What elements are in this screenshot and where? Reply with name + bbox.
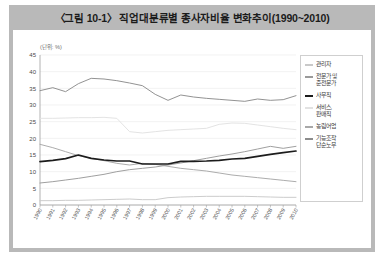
y-tick-label: 20: [29, 136, 36, 142]
legend-label-0: 관리자: [316, 61, 331, 68]
x-tick-label: 1998: [134, 207, 145, 220]
series-line-3: [40, 117, 296, 133]
legend-label-1: 전문가 및 준전문가: [316, 73, 337, 87]
y-tick-label: 30: [29, 102, 36, 108]
x-tick-label: 2005: [224, 207, 235, 220]
x-tick-label: 1994: [83, 207, 94, 220]
x-tick-label: 2007: [250, 207, 261, 220]
x-tick-label: 2003: [198, 207, 209, 220]
figure-container: 〈그림 10-1〉 직업대분류별 종사자비율 변화추이(1990~2010) 0…: [0, 0, 384, 257]
page-title: 〈그림 10-1〉 직업대분류별 종사자비율 변화추이(1990~2010): [55, 10, 330, 25]
x-tick-label: 2002: [186, 207, 197, 220]
x-tick-label: 2000: [160, 207, 171, 220]
legend-swatch-icon-5: [305, 138, 313, 140]
legend-item-4[interactable]: 농림어업: [305, 123, 359, 130]
y-tick-label: 5: [33, 186, 37, 192]
legend-item-0[interactable]: 관리자: [305, 61, 359, 68]
legend-label-3: 서비스, 판매직: [316, 104, 332, 118]
legend-swatch-icon-2: [305, 95, 313, 97]
y-tick-label: 40: [29, 69, 36, 75]
x-tick-label: 1990: [32, 207, 43, 220]
legend-label-5: 기능조작 단순노무: [316, 135, 335, 149]
x-tick-label: 1992: [58, 207, 69, 220]
x-tick-label: 1996: [109, 207, 120, 220]
x-tick-label: 1999: [147, 207, 158, 220]
y-tick-label: 25: [29, 119, 36, 125]
x-tick-label: 1995: [96, 207, 107, 220]
legend-swatch-icon-3: [305, 107, 313, 109]
legend-label-4: 농림어업: [316, 123, 335, 130]
x-tick-label: 1993: [70, 207, 81, 220]
figure-title-bar: 〈그림 10-1〉 직업대분류별 종사자비율 변화추이(1990~2010): [9, 5, 375, 30]
x-tick-label: 1997: [122, 207, 133, 220]
x-tick-label: 1991: [45, 207, 56, 220]
legend-item-5[interactable]: 기능조작 단순노무: [305, 135, 359, 149]
x-tick-label: 2001: [173, 207, 184, 220]
chart-legend: 관리자 전문가 및 준전문가 사무직 서비스, 판매직 농림어업 기능조작 단순…: [300, 55, 363, 202]
legend-item-2[interactable]: 사무직: [305, 92, 359, 99]
x-tick-label: 2004: [211, 207, 222, 220]
x-tick-label: 2009: [275, 207, 286, 220]
x-tick-label: 2006: [237, 207, 248, 220]
legend-item-1[interactable]: 전문가 및 준전문가: [305, 73, 359, 87]
legend-swatch-icon-4: [305, 126, 313, 128]
series-line-4: [40, 144, 296, 181]
y-tick-label: 35: [29, 86, 36, 92]
series-line-5: [40, 78, 296, 101]
x-tick-label: 2008: [262, 207, 273, 220]
y-tick-label: 45: [29, 52, 36, 58]
unit-label: (단위: %): [40, 43, 62, 51]
series-line-0: [40, 196, 296, 200]
x-tick-label: 2010: [288, 207, 299, 220]
y-tick-label: 0: [33, 202, 37, 208]
legend-swatch-icon-0: [305, 64, 313, 66]
legend-swatch-icon-1: [305, 76, 313, 78]
legend-item-3[interactable]: 서비스, 판매직: [305, 104, 359, 118]
legend-label-2: 사무직: [316, 92, 331, 99]
series-line-2: [40, 151, 296, 164]
y-tick-label: 10: [29, 169, 36, 175]
y-tick-label: 15: [29, 152, 36, 158]
